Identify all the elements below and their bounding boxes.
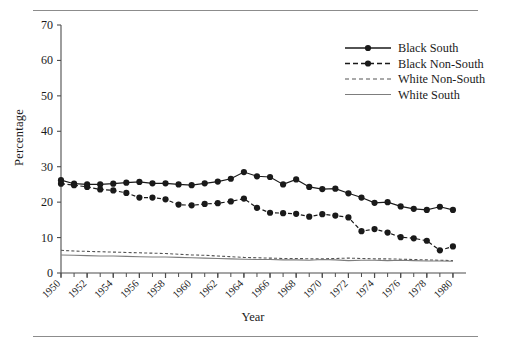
data-point bbox=[162, 180, 168, 186]
data-point bbox=[437, 204, 443, 210]
data-point bbox=[411, 206, 417, 212]
x-axis-label: Year bbox=[0, 310, 506, 325]
x-tick-label: 1966 bbox=[249, 278, 272, 301]
data-point bbox=[71, 182, 77, 188]
y-axis: 010203040506070 bbox=[41, 18, 61, 280]
data-point bbox=[267, 174, 273, 180]
y-tick-label: 40 bbox=[41, 124, 53, 138]
legend-label: Black Non-South bbox=[398, 57, 484, 71]
data-point bbox=[189, 182, 195, 188]
legend-swatch-marker bbox=[365, 60, 371, 66]
data-point bbox=[450, 207, 456, 213]
x-tick-label: 1968 bbox=[275, 278, 298, 301]
data-series-group bbox=[58, 169, 456, 261]
x-tick-label: 1962 bbox=[197, 278, 220, 301]
data-point bbox=[358, 194, 364, 200]
y-tick-label: 70 bbox=[41, 18, 53, 32]
series-white-south bbox=[61, 255, 453, 261]
data-point bbox=[175, 202, 181, 208]
data-point bbox=[385, 230, 391, 236]
data-point bbox=[254, 173, 260, 179]
data-point bbox=[424, 207, 430, 213]
data-point bbox=[110, 187, 116, 193]
series-black-non-south bbox=[58, 181, 456, 254]
data-point bbox=[202, 180, 208, 186]
data-point bbox=[332, 186, 338, 192]
x-tick-label: 1956 bbox=[118, 278, 141, 301]
legend-label: Black South bbox=[398, 41, 458, 55]
x-tick-label: 1952 bbox=[66, 278, 89, 301]
x-tick-label: 1974 bbox=[353, 277, 376, 300]
data-point bbox=[398, 203, 404, 209]
data-point bbox=[228, 198, 234, 204]
top-divider-rule bbox=[33, 10, 478, 11]
x-tick-label: 1970 bbox=[301, 278, 324, 301]
data-point bbox=[371, 200, 377, 206]
data-point bbox=[110, 181, 116, 187]
data-point bbox=[293, 211, 299, 217]
data-point bbox=[189, 202, 195, 208]
data-point bbox=[280, 210, 286, 216]
data-point bbox=[267, 210, 273, 216]
x-tick-label: 1964 bbox=[223, 277, 246, 300]
figure: Percentage Year 010203040506070 19501952… bbox=[0, 0, 506, 348]
data-point bbox=[84, 184, 90, 190]
data-point bbox=[450, 243, 456, 249]
data-point bbox=[254, 205, 260, 211]
data-point bbox=[175, 181, 181, 187]
data-point bbox=[58, 181, 64, 187]
x-tick-label: 1960 bbox=[170, 278, 193, 301]
data-point bbox=[136, 179, 142, 185]
data-point bbox=[358, 228, 364, 234]
data-point bbox=[162, 196, 168, 202]
y-tick-label: 30 bbox=[41, 160, 53, 174]
data-point bbox=[149, 194, 155, 200]
data-point bbox=[306, 184, 312, 190]
x-tick-label: 1972 bbox=[327, 278, 350, 301]
data-point bbox=[424, 238, 430, 244]
data-point bbox=[437, 247, 443, 253]
data-point bbox=[202, 201, 208, 207]
data-point bbox=[97, 186, 103, 192]
y-axis-label: Percentage bbox=[12, 90, 27, 186]
data-point bbox=[228, 176, 234, 182]
data-point bbox=[123, 180, 129, 186]
y-tick-label: 0 bbox=[47, 266, 53, 280]
y-tick-label: 60 bbox=[41, 53, 53, 67]
data-point bbox=[149, 180, 155, 186]
data-point bbox=[241, 169, 247, 175]
legend-swatch-marker bbox=[365, 45, 371, 51]
y-tick-label: 50 bbox=[41, 89, 53, 103]
data-point bbox=[136, 194, 142, 200]
legend-label: White Non-South bbox=[398, 72, 485, 86]
series-line bbox=[61, 255, 453, 261]
x-tick-label: 1954 bbox=[92, 277, 115, 300]
y-tick-label: 20 bbox=[41, 195, 53, 209]
bottom-divider-rule bbox=[33, 336, 478, 337]
data-point bbox=[398, 234, 404, 240]
y-tick-label: 10 bbox=[41, 231, 53, 245]
data-point bbox=[332, 213, 338, 219]
data-point bbox=[280, 181, 286, 187]
data-point bbox=[241, 196, 247, 202]
x-tick-label: 1958 bbox=[144, 278, 167, 301]
data-point bbox=[293, 176, 299, 182]
data-point bbox=[215, 200, 221, 206]
x-tick-label: 1978 bbox=[406, 278, 429, 301]
data-point bbox=[123, 190, 129, 196]
data-point bbox=[371, 226, 377, 232]
x-tick-label: 1976 bbox=[379, 278, 402, 301]
series-line bbox=[61, 184, 453, 251]
data-point bbox=[411, 235, 417, 241]
data-point bbox=[345, 190, 351, 196]
x-axis: 1950195219541956195819601962196419661968… bbox=[40, 273, 466, 300]
data-point bbox=[345, 214, 351, 220]
data-point bbox=[385, 199, 391, 205]
x-tick-label: 1950 bbox=[40, 278, 63, 301]
legend-label: White South bbox=[398, 88, 460, 102]
data-point bbox=[215, 178, 221, 184]
line-chart-plot: 010203040506070 195019521954195619581960… bbox=[0, 0, 506, 348]
data-point bbox=[319, 211, 325, 217]
data-point bbox=[319, 186, 325, 192]
data-point bbox=[306, 214, 312, 220]
